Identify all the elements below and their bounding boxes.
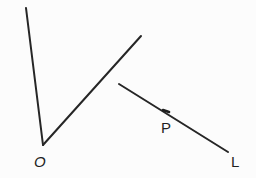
figure-canvas bbox=[0, 0, 256, 178]
segment-line bbox=[119, 84, 228, 152]
angle-ray-left bbox=[26, 8, 43, 145]
point-label-l: L bbox=[231, 154, 240, 169]
segment-shape bbox=[119, 84, 228, 152]
angle-shape bbox=[26, 8, 141, 145]
vertex-label-o: O bbox=[34, 154, 46, 169]
point-label-p: P bbox=[161, 120, 171, 135]
geometry-figure: O P L bbox=[0, 0, 256, 178]
angle-ray-right bbox=[43, 36, 141, 145]
